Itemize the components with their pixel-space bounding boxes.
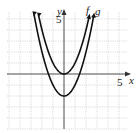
y-axis <box>62 9 67 129</box>
y-tick-5: 5 <box>56 13 62 25</box>
grid <box>7 12 128 129</box>
curve-label-f: f <box>86 4 91 16</box>
x-axis-label: x <box>128 74 134 86</box>
x-tick-5: 5 <box>117 76 123 88</box>
curve-label-g: g <box>95 5 101 17</box>
graph: y 5 5 x f g <box>0 0 136 133</box>
